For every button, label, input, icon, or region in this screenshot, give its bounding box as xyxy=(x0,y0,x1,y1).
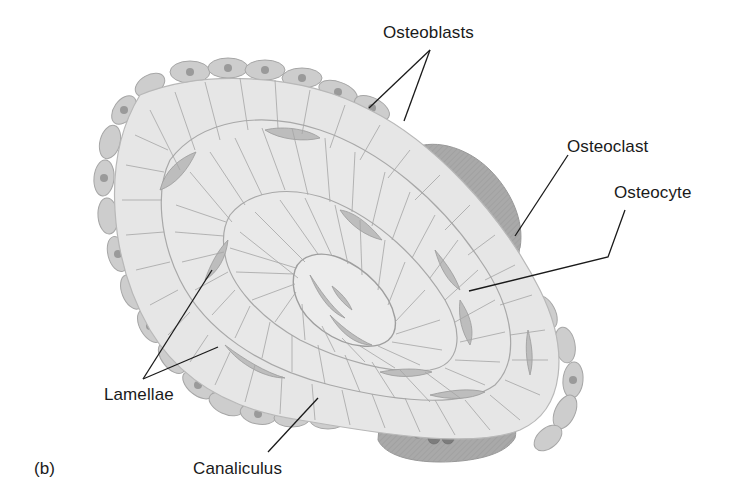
label-lamellae: Lamellae xyxy=(104,386,174,403)
label-osteoblasts: Osteoblasts xyxy=(383,24,474,41)
label-osteoclast: Osteoclast xyxy=(567,138,648,155)
label-osteocyte: Osteocyte xyxy=(614,184,691,201)
osteoblasts-leader-line-2 xyxy=(404,50,430,121)
panel-label: (b) xyxy=(34,460,55,477)
osteoblasts-leader-line xyxy=(369,50,430,108)
osteon-diagram: Osteoblasts Osteoclast Osteocyte Lamella… xyxy=(0,0,739,501)
osteon-illustration xyxy=(0,0,739,501)
osteoclast-leader-line xyxy=(515,155,568,236)
label-canaliculus: Canaliculus xyxy=(193,460,282,477)
